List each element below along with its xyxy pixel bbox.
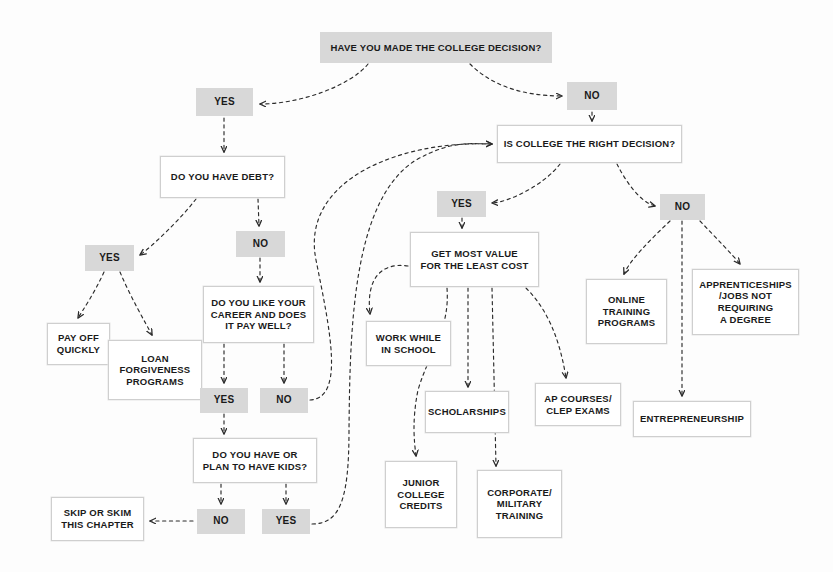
edge-q_college_decision-to-no_1 [470,64,562,96]
edge-q_college_right-to-yes_3 [492,164,560,203]
edge-q_have_debt-to-no_2 [258,199,259,226]
node-online_training[interactable]: ONLINETRAININGPROGRAMS [586,279,667,344]
node-work_while_school[interactable]: WORK WHILEIN SCHOOL [366,321,451,366]
node-loan_forgiveness[interactable]: LOANFORGIVENESSPROGRAMS [108,340,202,400]
node-label-no_2: NO [236,238,285,250]
edge-q_college_decision-to-yes_1 [260,64,368,104]
node-label-yes_5: YES [262,515,310,527]
node-q_like_career[interactable]: DO YOU LIKE YOURCAREER AND DOESIT PAY WE… [203,286,314,343]
node-label-corporate_military: CORPORATE/MILITARYTRAINING [478,487,561,522]
edge-yes_2-to-pay_off_quickly [78,272,104,318]
node-q_have_debt[interactable]: DO YOU HAVE DEBT? [160,156,285,198]
edge-no_3-to-apprenticeships [700,221,740,264]
edge-yes_2-to-loan_forgiveness [120,272,152,335]
node-pay_off_quickly[interactable]: PAY OFFQUICKLY [47,323,110,365]
node-apprenticeships[interactable]: APPRENTICESHIPS/JOBS NOTREQUIRINGA DEGRE… [692,269,799,335]
node-yes_4[interactable]: YES [200,388,248,413]
node-no_4[interactable]: NO [260,388,308,413]
edge-q_college_right-to-no_3 [617,164,655,206]
node-label-q_college_decision: HAVE YOU MADE THE COLLEGE DECISION? [320,42,552,54]
node-label-apprenticeships: APPRENTICESHIPS/JOBS NOTREQUIRINGA DEGRE… [693,279,798,325]
node-label-yes_4: YES [200,394,248,406]
node-label-get_most_value: GET MOST VALUEFOR THE LEAST COST [411,248,538,271]
node-junior_college[interactable]: JUNIORCOLLEGECREDITS [385,461,457,528]
node-label-no_3: NO [660,201,705,213]
node-label-q_college_right: IS COLLEGE THE RIGHT DECISION? [498,138,681,150]
edge-q_have_debt-to-yes_2 [140,199,196,255]
node-label-q_have_kids: DO YOU HAVE ORPLAN TO HAVE KIDS? [194,449,316,472]
flowchart-canvas: HAVE YOU MADE THE COLLEGE DECISION?YESNO… [0,0,833,572]
node-no_5[interactable]: NO [197,509,245,534]
node-q_college_decision[interactable]: HAVE YOU MADE THE COLLEGE DECISION? [320,32,552,63]
edge-get_most_value-to-ap_courses [526,288,566,378]
node-label-no_5: NO [197,515,245,527]
node-yes_1[interactable]: YES [196,88,253,116]
node-no_3[interactable]: NO [660,194,705,220]
node-label-skip_or_skim: SKIP OR SKIMTHIS CHAPTER [52,507,143,530]
node-yes_2[interactable]: YES [85,245,134,271]
node-label-online_training: ONLINETRAININGPROGRAMS [587,294,666,329]
node-yes_5[interactable]: YES [262,509,310,534]
edge-no_3-to-online_training [624,221,670,274]
node-label-loan_forgiveness: LOANFORGIVENESSPROGRAMS [109,353,201,388]
node-corporate_military[interactable]: CORPORATE/MILITARYTRAINING [477,470,562,538]
node-label-no_1: NO [567,90,617,102]
node-label-work_while_school: WORK WHILEIN SCHOOL [367,332,450,355]
node-label-pay_off_quickly: PAY OFFQUICKLY [48,332,109,355]
node-q_college_right[interactable]: IS COLLEGE THE RIGHT DECISION? [497,125,682,163]
node-get_most_value[interactable]: GET MOST VALUEFOR THE LEAST COST [410,232,539,287]
node-no_1[interactable]: NO [567,82,617,110]
node-label-no_4: NO [260,394,308,406]
node-label-scholarships: SCHOLARSHIPS [424,406,510,418]
node-q_have_kids[interactable]: DO YOU HAVE ORPLAN TO HAVE KIDS? [193,438,317,483]
node-scholarships[interactable]: SCHOLARSHIPS [425,391,509,433]
node-skip_or_skim[interactable]: SKIP OR SKIMTHIS CHAPTER [51,497,144,541]
node-ap_courses[interactable]: AP COURSES/CLEP EXAMS [535,383,621,426]
node-entrepreneurship[interactable]: ENTREPRENEURSHIP [633,401,751,437]
edge-get_most_value-to-work_while_school [369,265,408,314]
node-no_2[interactable]: NO [236,231,285,257]
node-label-ap_courses: AP COURSES/CLEP EXAMS [536,393,620,416]
node-label-yes_1: YES [196,96,253,108]
node-label-q_have_debt: DO YOU HAVE DEBT? [161,171,284,183]
node-label-yes_2: YES [85,252,134,264]
node-label-entrepreneurship: ENTREPRENEURSHIP [634,413,750,425]
node-label-junior_college: JUNIORCOLLEGECREDITS [386,477,456,512]
node-label-yes_3: YES [437,198,486,210]
node-yes_3[interactable]: YES [437,191,486,217]
node-label-q_like_career: DO YOU LIKE YOURCAREER AND DOESIT PAY WE… [204,297,313,332]
edge-get_most_value-to-corporate_military [492,288,496,466]
